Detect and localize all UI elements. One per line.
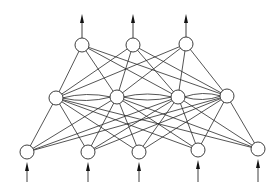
connection-edge bbox=[27, 98, 56, 152]
hidden-node bbox=[220, 89, 234, 103]
arrow-up-icon bbox=[25, 162, 29, 171]
arrow-up-icon bbox=[137, 162, 141, 171]
input-node bbox=[132, 145, 146, 159]
lateral-connection bbox=[123, 97, 172, 100]
arrow-up-icon bbox=[256, 159, 260, 168]
connection-edge bbox=[186, 44, 227, 96]
lateral-connection bbox=[184, 93, 221, 97]
connection-edge bbox=[56, 98, 258, 149]
connection-edge bbox=[56, 98, 139, 152]
connection-edge bbox=[178, 97, 258, 149]
connection-edge bbox=[82, 45, 227, 96]
arrow-up-icon bbox=[86, 162, 90, 171]
hidden-node bbox=[110, 90, 124, 104]
hidden-node bbox=[171, 90, 185, 104]
lateral-connection bbox=[123, 94, 172, 97]
connection-edge bbox=[227, 96, 258, 149]
connection-edge bbox=[82, 45, 178, 97]
connection-edge bbox=[198, 96, 227, 150]
arrow-up-icon bbox=[196, 160, 200, 169]
connection-edge bbox=[56, 45, 82, 98]
input-node bbox=[251, 142, 265, 156]
connection-edge bbox=[117, 97, 258, 149]
connection-edge bbox=[139, 96, 227, 152]
connection-edge bbox=[56, 98, 88, 152]
neural-network-diagram bbox=[0, 0, 279, 192]
arrow-up-icon bbox=[131, 14, 135, 23]
connection-edge bbox=[82, 45, 117, 97]
connection-edge bbox=[56, 44, 186, 98]
input-node bbox=[20, 145, 34, 159]
connection-edge bbox=[133, 45, 227, 96]
output-node bbox=[75, 38, 89, 52]
lateral-connection bbox=[62, 94, 111, 98]
neuron-nodes bbox=[20, 37, 265, 159]
hidden-node bbox=[49, 91, 63, 105]
output-node bbox=[179, 37, 193, 51]
lateral-connection bbox=[62, 97, 111, 101]
connection-edge bbox=[56, 98, 198, 150]
connection-edge bbox=[117, 44, 186, 97]
lateral-connections bbox=[62, 93, 221, 100]
arrow-up-icon bbox=[184, 14, 188, 23]
input-node bbox=[191, 143, 205, 157]
arrow-up-icon bbox=[80, 14, 84, 23]
input-node bbox=[81, 145, 95, 159]
output-node bbox=[126, 38, 140, 52]
connection-edge bbox=[56, 45, 133, 98]
connection-edge bbox=[88, 97, 117, 152]
